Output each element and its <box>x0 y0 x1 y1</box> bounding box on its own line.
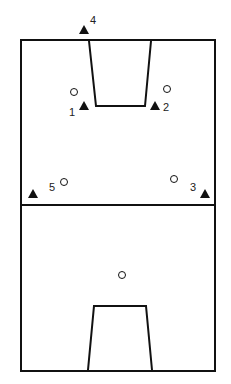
player-number-label: 2 <box>163 101 169 113</box>
defender-circle-icon <box>119 272 126 279</box>
offense-triangle-icon <box>79 101 89 110</box>
player-number-label: 3 <box>190 181 196 193</box>
offense-triangle-icon <box>150 101 160 110</box>
court-diagram: 41253 <box>0 0 231 384</box>
offense-triangle-icon <box>28 189 38 198</box>
offense-triangle-icon <box>79 25 89 34</box>
player-number-label: 1 <box>69 106 75 118</box>
defender-circle-icon <box>164 86 171 93</box>
offense-triangle-icon <box>200 189 210 198</box>
top-key <box>89 41 151 106</box>
defender-circle-icon <box>61 179 68 186</box>
bottom-key <box>88 306 152 370</box>
player-number-label: 5 <box>49 181 55 193</box>
player-number-label: 4 <box>90 14 96 26</box>
defender-circle-icon <box>71 89 78 96</box>
defender-circle-icon <box>171 176 178 183</box>
